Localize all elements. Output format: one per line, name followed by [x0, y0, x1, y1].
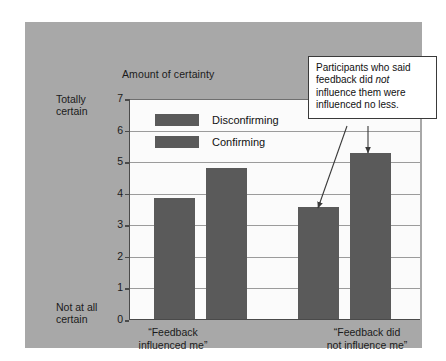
bar-disconfirming-group-1 [298, 207, 339, 319]
y-tick-label-6: 6 [101, 124, 123, 136]
y-tick-label-3: 3 [101, 218, 123, 230]
callout-line-2-emphasis: not [376, 74, 390, 85]
y-tick-label-7: 7 [101, 92, 123, 104]
y-axis-endpoint-top-line2: certain [56, 105, 88, 117]
bar-confirming-group-0 [206, 168, 247, 319]
legend-swatch-disconfirming [155, 114, 199, 126]
bar-disconfirming-group-0 [154, 198, 195, 319]
y-tick-label-2: 2 [101, 250, 123, 262]
x-category-label-1-line2: not influence me” [297, 339, 437, 352]
bar-confirming-group-1 [350, 153, 391, 319]
y-axis-endpoint-bottom-line1: Not at all [56, 301, 97, 313]
y-axis-title: Amount of certainty [122, 68, 214, 80]
legend-label-confirming: Confirming [212, 136, 265, 148]
x-category-label-0-line1: “Feedback [103, 326, 243, 339]
callout-line-3: influence them were [316, 87, 406, 98]
callout-line-1: Participants who said [316, 62, 411, 73]
legend-item-disconfirming: Disconfirming [155, 110, 279, 129]
x-category-label-1: “Feedback did not influence me” [297, 326, 437, 352]
callout-line-2-prefix: feedback did [316, 74, 376, 85]
y-tick-label-0: 0 [101, 313, 123, 325]
y-tick-label-4: 4 [101, 187, 123, 199]
chart-legend: DisconfirmingConfirming [155, 110, 279, 154]
y-axis-endpoint-top: Totally certain [56, 93, 88, 117]
y-axis-endpoint-top-line1: Totally [56, 93, 88, 105]
x-category-label-1-line1: “Feedback did [297, 326, 437, 339]
chart-figure-panel: Amount of certainty Totally certain Not … [25, 22, 422, 348]
x-category-label-0: “Feedback influenced me” [103, 326, 243, 352]
legend-label-disconfirming: Disconfirming [212, 114, 279, 126]
legend-swatch-confirming [155, 136, 199, 148]
y-tick-mark-0 [125, 320, 129, 322]
legend-item-confirming: Confirming [155, 132, 279, 151]
x-category-label-0-line2: influenced me” [103, 339, 243, 352]
y-tick-label-1: 1 [101, 281, 123, 293]
callout-line-4: influenced no less. [316, 99, 399, 110]
y-axis-endpoint-bottom: Not at all certain [56, 301, 97, 325]
y-tick-label-5: 5 [101, 155, 123, 167]
y-axis-endpoint-bottom-line2: certain [56, 313, 97, 325]
callout-annotation-box: Participants who said feedback did not i… [308, 56, 437, 119]
